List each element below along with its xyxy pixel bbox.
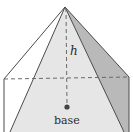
pyramid-diagram: h base: [0, 0, 133, 132]
base-label: base: [54, 114, 80, 127]
base-point: [64, 104, 69, 109]
height-label: h: [70, 44, 78, 58]
